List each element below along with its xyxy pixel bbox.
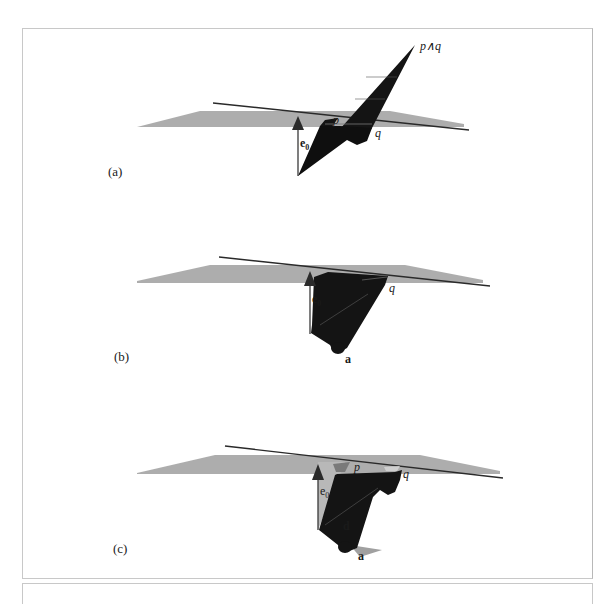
- label-p-wedge-q: p∧q: [419, 39, 441, 53]
- label-a: a: [358, 549, 364, 563]
- panel-b: q e0 a (b): [114, 257, 490, 366]
- label-q: q: [389, 281, 395, 295]
- vector-a-tip-b: [331, 342, 345, 354]
- caption-b: (b): [114, 349, 129, 364]
- vector-a-tip-c: [338, 541, 352, 553]
- label-e0: e0: [300, 136, 309, 152]
- panel-a: p∧q p q e0 (a): [108, 39, 469, 179]
- label-q: q: [375, 126, 381, 140]
- label-d: d: [343, 519, 350, 533]
- caption-a: (a): [108, 164, 122, 179]
- panel-c: p q e0 d a (c): [113, 446, 503, 563]
- label-p: p: [353, 460, 360, 474]
- label-a: a: [345, 352, 351, 366]
- bivector-b: [311, 272, 388, 352]
- caption-c: (c): [113, 541, 127, 556]
- label-q: q: [403, 467, 409, 481]
- label-p: p: [332, 113, 339, 127]
